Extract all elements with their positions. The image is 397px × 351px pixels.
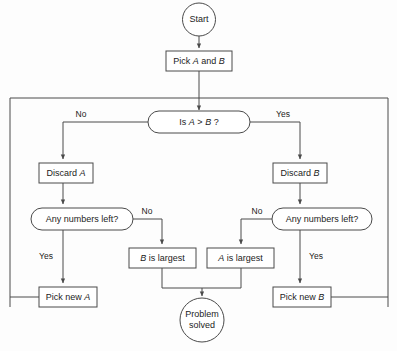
node-start-label: Start xyxy=(189,14,209,24)
edge-label-decision-yes: Yes xyxy=(276,109,290,119)
svg-text:Pick new A: Pick new A xyxy=(46,292,91,302)
edge-alargest-to-merge xyxy=(202,268,241,288)
any-left-label-left: Any numbers left? xyxy=(46,214,119,224)
svg-text:Discard A: Discard A xyxy=(46,168,85,178)
node-problem-solved[interactable]: Problem solved xyxy=(180,298,224,342)
decision-label-op: > xyxy=(195,117,205,127)
discard-b-label-var: B xyxy=(314,168,320,178)
flowchart-canvas: Start Pick A and B Is A > B ? Discard A xyxy=(0,0,397,351)
flowchart-svg: Start Pick A and B Is A > B ? Discard A xyxy=(0,0,397,351)
decision-label-post: ? xyxy=(211,117,219,127)
edge-left-any-no xyxy=(133,219,162,244)
node-a-is-largest[interactable]: A is largest xyxy=(207,248,274,268)
edge-decision-no xyxy=(63,122,148,159)
edge-label-right-any-no: No xyxy=(252,206,263,216)
pick-new-a-label-pre: Pick new xyxy=(46,292,85,302)
node-pick-a-and-b[interactable]: Pick A and B xyxy=(166,51,232,71)
a-largest-label-post: is largest xyxy=(224,253,263,263)
edge-blargest-to-merge xyxy=(162,268,202,288)
edge-right-any-no xyxy=(241,219,272,244)
node-any-numbers-left-right[interactable]: Any numbers left? xyxy=(272,208,372,230)
edge-decision-yes xyxy=(250,122,300,159)
a-largest-label-var: A xyxy=(217,253,224,263)
pick-label-pre: Pick xyxy=(173,56,193,66)
pick-label-a: A xyxy=(192,56,199,66)
pick-new-b-label-var: B xyxy=(318,292,324,302)
edge-label-left-any-yes: Yes xyxy=(39,251,53,261)
any-left-label-right: Any numbers left? xyxy=(286,214,359,224)
b-largest-label-post: is largest xyxy=(146,253,185,263)
node-discard-b[interactable]: Discard B xyxy=(273,163,327,183)
node-start[interactable]: Start xyxy=(183,3,216,36)
decision-label-pre: Is xyxy=(179,117,189,127)
svg-text:Discard B: Discard B xyxy=(280,168,319,178)
problem-solved-line2: solved xyxy=(189,320,215,330)
svg-text:B is largest: B is largest xyxy=(140,253,185,263)
node-b-is-largest[interactable]: B is largest xyxy=(129,248,196,268)
svg-text:Is A > B ?: Is A > B ? xyxy=(179,117,218,127)
svg-text:A is largest: A is largest xyxy=(217,253,263,263)
node-decision-is-a-greater-b[interactable]: Is A > B ? xyxy=(148,111,250,133)
pick-new-a-label-var: A xyxy=(83,292,90,302)
pick-label-b: B xyxy=(219,56,225,66)
pick-label-mid: and xyxy=(199,56,219,66)
pick-new-b-label-pre: Pick new xyxy=(280,292,319,302)
edge-label-left-any-no: No xyxy=(142,206,153,216)
svg-text:Pick new B: Pick new B xyxy=(280,292,325,302)
node-any-numbers-left-left[interactable]: Any numbers left? xyxy=(31,208,133,230)
svg-text:Pick A and B: Pick A and B xyxy=(173,56,225,66)
decision-label-a: A xyxy=(188,117,195,127)
node-pick-new-b[interactable]: Pick new B xyxy=(273,287,331,307)
discard-a-label-var: A xyxy=(79,168,86,178)
edge-label-decision-no: No xyxy=(76,109,87,119)
discard-b-label-pre: Discard xyxy=(280,168,313,178)
node-pick-new-a[interactable]: Pick new A xyxy=(39,287,97,307)
edge-label-right-any-yes: Yes xyxy=(309,251,323,261)
discard-a-label-pre: Discard xyxy=(46,168,79,178)
problem-solved-line1: Problem xyxy=(185,309,219,319)
node-discard-a[interactable]: Discard A xyxy=(39,163,93,183)
